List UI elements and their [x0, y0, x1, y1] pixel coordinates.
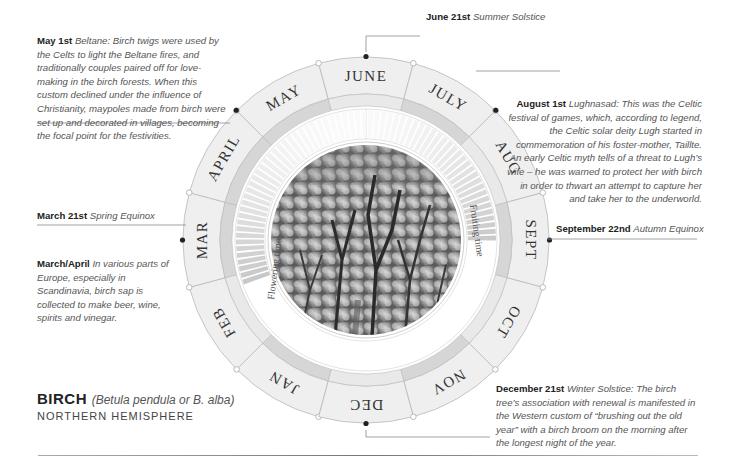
inner-band-sept: [495, 202, 512, 278]
month-label-june: JUNE: [345, 68, 388, 84]
june-note-date: June 21st: [426, 11, 470, 22]
bottom-divider: [38, 455, 698, 456]
marker-june21: [363, 54, 368, 59]
marker-dec21: [363, 421, 368, 426]
marker-sept22: [547, 237, 552, 242]
september-note-text: Autumn Equinox: [633, 223, 703, 234]
month-boundary-dot: [411, 60, 417, 66]
month-label-mar: MAR: [194, 221, 210, 260]
march-april-note: March/April In various parts of Europe, …: [37, 257, 177, 325]
species-title: BIRCH (Betula pendula or B. alba): [37, 390, 234, 407]
month-label-dec: DEC: [349, 397, 384, 413]
month-boundary-dot: [186, 190, 192, 196]
month-boundary-dot: [540, 285, 546, 291]
september-note-date: September 22nd: [556, 223, 631, 234]
month-boundary-dot: [493, 367, 499, 373]
month-boundary-dot: [411, 414, 417, 420]
month-boundary-dot: [316, 60, 322, 66]
title-block: BIRCH (Betula pendula or B. alba) NORTHE…: [37, 390, 234, 422]
august-note: August 1st Lughnasad: This was the Celti…: [502, 97, 702, 206]
june-note-text: Summer Solstice: [473, 11, 546, 22]
marker-aug1: [493, 108, 498, 113]
month-boundary-dot: [234, 367, 240, 373]
month-label-sept: SEPT: [523, 219, 539, 260]
june-note: June 21st Summer Solstice: [426, 10, 646, 24]
inner-band-dec: [328, 369, 404, 386]
march-21-note-date: March 21st: [37, 210, 87, 221]
march-21-note: March 21st Spring Equinox: [37, 209, 217, 223]
may-note-text: Beltane: Birch twigs were used by the Ce…: [37, 35, 226, 141]
marker-may1: [234, 108, 239, 113]
september-note: September 22nd Autumn Equinox: [556, 222, 726, 236]
march-april-note-date: March/April: [37, 258, 90, 269]
june-leader-line: [366, 36, 420, 52]
marker-march21: [180, 237, 185, 242]
inner-band-mar: [220, 202, 237, 278]
december-note: December 21st Winter Solstice: The birch…: [496, 382, 696, 450]
may-note: May 1st Beltane: Birch twigs were used b…: [37, 34, 229, 143]
august-note-text: Lughnasad: This was the Celtic festival …: [507, 98, 702, 204]
december-leader-line: [366, 430, 490, 437]
may-note-date: May 1st: [37, 35, 72, 46]
species-latin-name: (Betula pendula or B. alba): [92, 393, 235, 407]
august-note-date: August 1st: [516, 98, 566, 109]
month-boundary-dot: [186, 285, 192, 291]
inner-band-june: [328, 94, 404, 111]
species-name: BIRCH: [37, 390, 87, 407]
hemisphere-label: NORTHERN HEMISPHERE: [37, 410, 234, 422]
december-note-date: December 21st: [496, 383, 564, 394]
march-21-note-text: Spring Equinox: [90, 210, 155, 221]
birch-tree-photo: [268, 142, 464, 338]
